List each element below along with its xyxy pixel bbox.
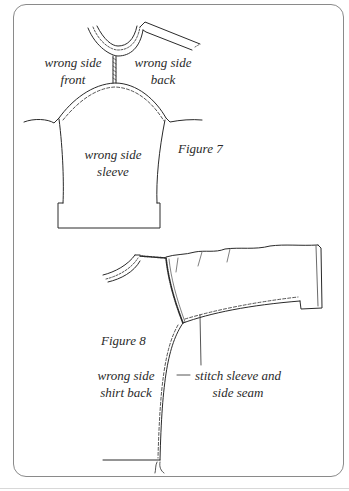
figure-8-drawing: [103, 245, 322, 473]
label-front: wrong side front: [38, 54, 108, 88]
label-shirt-back: wrong side shirt back: [93, 367, 159, 401]
label-sleeve: wrong side sleeve: [78, 146, 148, 180]
label-shirt-back-line1: wrong side: [93, 367, 159, 384]
label-stitch-instruction: stitch sleeve and side seam: [195, 367, 281, 401]
label-stitch-instruction-line1: stitch sleeve and: [195, 367, 281, 384]
label-back-line1: wrong side: [128, 54, 198, 71]
label-front-line2: front: [38, 71, 108, 88]
figure-8-caption: Figure 8: [101, 332, 146, 349]
figure-7-drawing: [24, 22, 202, 228]
label-back: wrong side back: [128, 54, 198, 88]
label-stitch-instruction-line2: side seam: [195, 384, 281, 401]
figure-7-caption: Figure 7: [178, 140, 223, 157]
label-sleeve-line1: wrong side: [78, 146, 148, 163]
label-front-line1: wrong side: [38, 54, 108, 71]
label-back-line2: back: [128, 71, 198, 88]
label-sleeve-line2: sleeve: [78, 163, 148, 180]
label-shirt-back-line2: shirt back: [93, 384, 159, 401]
